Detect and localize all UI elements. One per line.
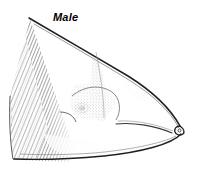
body-stipple	[44, 52, 160, 156]
mouth-line	[116, 123, 172, 133]
snout-tip-point	[178, 129, 181, 132]
jaw-crease-line	[118, 121, 173, 131]
skate-illustration	[0, 0, 203, 173]
specimen-sex-label: Male	[53, 11, 78, 24]
figure-root: Male	[0, 0, 203, 173]
snout-tip-outline	[175, 126, 184, 135]
